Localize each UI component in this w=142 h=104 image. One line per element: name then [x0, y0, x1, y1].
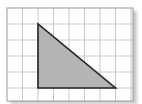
grid-diagram [0, 0, 142, 104]
grid-canvas [0, 0, 142, 104]
